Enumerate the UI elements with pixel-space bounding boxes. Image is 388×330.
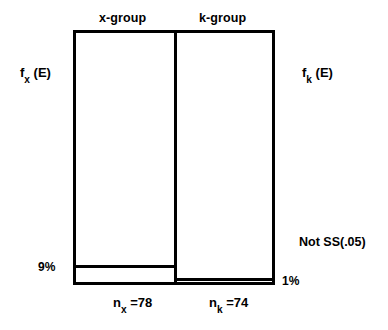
value-label-right-segment: 1% [282, 275, 299, 287]
segment-line-left-9pct [76, 265, 174, 268]
footer-label-right-base: n [209, 295, 217, 310]
group-divider [174, 33, 177, 282]
axis-label-right-subscript: k [306, 74, 312, 85]
axis-label-right-suffix: (E) [316, 65, 333, 80]
axis-label-left-suffix: (E) [34, 65, 51, 80]
footer-label-right-subscript: k [217, 304, 223, 315]
footer-label-left-suffix: =78 [130, 295, 152, 310]
figure-canvas: x-group k-group fx (E) fk (E) Not SS(.05… [0, 0, 388, 330]
header-label-k-group: k-group [199, 12, 246, 25]
value-label-left-segment: 9% [38, 261, 55, 273]
footer-label-right-suffix: =74 [226, 295, 248, 310]
axis-label-left-subscript: x [24, 74, 30, 85]
annotation-not-ss: Not SS(.05) [299, 236, 366, 249]
footer-label-k-group: nk =74 [209, 296, 248, 313]
axis-label-right: fk (E) [302, 66, 333, 83]
axis-label-left: fx (E) [20, 66, 51, 83]
header-label-x-group: x-group [99, 12, 146, 25]
plot-frame [73, 30, 275, 285]
footer-label-left-subscript: x [121, 304, 127, 315]
segment-line-right-1pct [177, 278, 272, 281]
footer-label-x-group: nx =78 [113, 296, 152, 313]
footer-label-left-base: n [113, 295, 121, 310]
